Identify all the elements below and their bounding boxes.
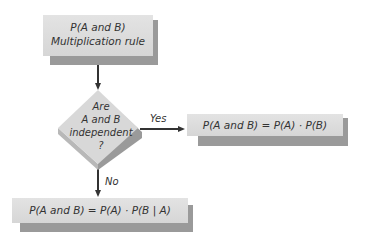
arrowhead-down-icon <box>95 190 101 197</box>
start-box-subtitle: Multiplication rule <box>43 34 153 48</box>
no-box-formula: P(A and B) = P(A) · P(B | A) <box>12 198 188 223</box>
start-box-shadow <box>50 55 158 65</box>
no-label: No <box>105 176 119 187</box>
yes-label: Yes <box>150 113 166 124</box>
no-box: P(A and B) = P(A) · P(B | A) <box>12 198 188 223</box>
yes-box-formula: P(A and B) = P(A) · P(B) <box>187 114 343 136</box>
decision-line-3: independent <box>66 126 136 139</box>
decision-text: Are A and B independent ? <box>66 100 136 152</box>
decision-line-1: Are <box>66 100 136 113</box>
start-box: P(A and B) Multiplication rule <box>43 15 153 56</box>
no-box-shadow <box>20 222 193 232</box>
arrowhead-right-icon <box>178 126 185 132</box>
start-box-title: P(A and B) <box>43 20 153 34</box>
decision-line-2: A and B <box>66 113 136 126</box>
decision-line-4: ? <box>66 139 136 152</box>
arrow-no <box>97 168 99 192</box>
yes-box: P(A and B) = P(A) · P(B) <box>187 114 343 136</box>
